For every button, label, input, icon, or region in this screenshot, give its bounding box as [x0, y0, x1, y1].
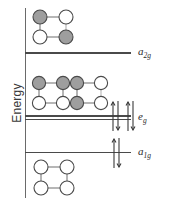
node-top-left [33, 10, 47, 24]
electron-arrow-pair-eg-2 [125, 101, 136, 131]
node-bottom-left [34, 181, 48, 195]
energy-axis-label: Energy [10, 58, 24, 148]
orbital-diagram-a2g [29, 6, 77, 48]
node-top-right [60, 160, 74, 174]
node-bottom-left [33, 30, 47, 44]
electron-arrow-pair-eg-1 [110, 101, 121, 131]
energy-level-label-a2g: a2g [138, 45, 151, 60]
term-sub-a1g: 1g [144, 151, 152, 160]
term-sub-eg: g [143, 116, 147, 125]
energy-level-label-a1g: a1g [138, 145, 151, 160]
term-sub-a2g: 2g [144, 51, 152, 60]
node-bottom-left [32, 96, 45, 109]
node-top-left [32, 76, 45, 89]
energy-level-line-a2g [25, 52, 131, 54]
energy-level-label-eg: eg [138, 110, 147, 125]
node-top-right [94, 76, 107, 89]
orbital-diagram-a1g [30, 156, 78, 200]
node-bottom-right [94, 96, 107, 109]
electron-arrow-pair-a1g-1 [111, 138, 122, 168]
node-top-left [70, 76, 83, 89]
node-top-right [59, 10, 73, 24]
orbital-diagram-eg-2 [67, 73, 111, 115]
energy-level-diagram-figure: Energy a2g eg a1g [0, 0, 170, 205]
energy-axis-line [25, 8, 26, 198]
node-bottom-left [70, 96, 83, 109]
node-bottom-right [59, 30, 73, 44]
node-top-left [34, 160, 48, 174]
node-bottom-right [60, 181, 74, 195]
